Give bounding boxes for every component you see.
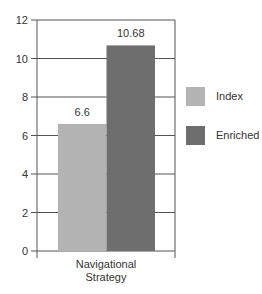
y-tick-label: 8 (22, 91, 28, 103)
y-tick-label: 6 (22, 130, 28, 142)
y-tick-label: 0 (22, 245, 28, 257)
legend-label-index: Index (216, 90, 243, 102)
y-tick-label: 2 (22, 207, 28, 219)
category-label: Strategy (86, 271, 127, 283)
legend-item-enriched: Enriched (186, 125, 259, 145)
bar-enriched (107, 45, 156, 251)
bars (58, 45, 155, 251)
y-tick-label: 10 (16, 53, 28, 65)
data-label-index: 6.6 (75, 106, 90, 118)
legend-swatch-enriched (186, 126, 205, 145)
category-label: Navigational (76, 258, 137, 270)
category-labels: NavigationalStrategy (76, 258, 137, 283)
legend: Index Enriched (186, 86, 259, 164)
legend-swatch-index (186, 87, 205, 106)
y-axis-ticks: 024681012 (16, 14, 37, 257)
legend-item-index: Index (186, 86, 259, 106)
legend-label-enriched: Enriched (216, 129, 259, 141)
data-label-enriched: 10.68 (117, 27, 145, 39)
y-tick-label: 4 (22, 168, 28, 180)
y-tick-label: 12 (16, 14, 28, 26)
bar-index (58, 124, 107, 251)
